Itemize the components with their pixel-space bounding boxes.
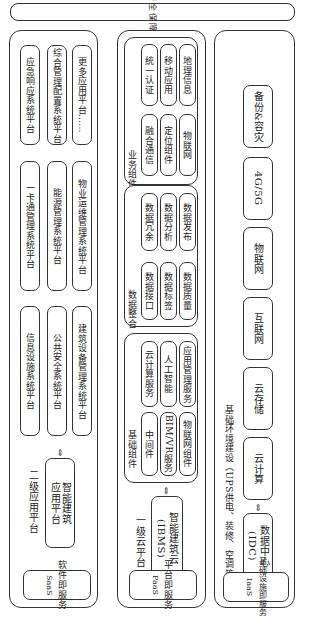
comp-data-interface: 数据接口: [141, 262, 158, 320]
bidirectional-arrow-icon: ⇔: [253, 504, 262, 512]
comp-middleware: 中间件: [141, 412, 158, 476]
comp-app-management: 应用管理服务: [179, 341, 196, 407]
comp-bim-vr: BIM/VR服务: [160, 412, 177, 476]
platform-energy-management: 能源管理系统平台: [47, 161, 67, 291]
security-system-banner: 统一安全保障体系: [10, 3, 295, 21]
platform-more-apps: 更多应用平台……: [72, 45, 92, 145]
iaas-tag-cn: 基础设施即服务: [257, 557, 268, 617]
core-line-2: (IBMS): [156, 519, 167, 558]
saas-layer-tag: SaaS 软件即服务: [23, 570, 91, 600]
business-components-title: 业务组件: [127, 150, 136, 188]
platform-public-safety: 公共安全系统平台: [47, 306, 67, 436]
iaas-layer-tag: IaaS 基础设施即服务: [223, 572, 289, 602]
paas-layer-title: 一级云平台: [134, 515, 144, 568]
comp-positioning: 定位组件: [160, 114, 177, 176]
platform-property-ops: 物业运维管理系统平台: [72, 161, 92, 291]
infra-iot: 物联网: [243, 227, 273, 290]
saas-layer-title: 二级应用平台: [27, 470, 37, 533]
platform-one-card: 一卡通管理系统平台: [20, 161, 40, 291]
infra-cloud-computing: 云计算: [243, 437, 273, 500]
iaas-layer-title: 基础环境建设（UPS供电、装修、空调等）: [224, 405, 233, 588]
comp-unified-auth: 统一认证: [141, 44, 158, 106]
platform-info-facilities: 信息设施系统平台: [20, 306, 40, 436]
paas-layer-tag: PaaS 平台即服务: [129, 570, 197, 600]
comp-geo-info: 地理信息: [179, 44, 196, 106]
bidirectional-arrow-icon: ⇔: [161, 487, 170, 495]
core-line-1: 智能建筑云: [168, 512, 179, 565]
paas-tag-cn: 平台即服务: [163, 560, 176, 610]
comp-data-quality: 数据质量: [179, 262, 196, 320]
comp-data-analysis: 数据分析: [160, 193, 177, 251]
comp-data-redundancy: 数据冗余: [141, 193, 158, 251]
core-line-2: 应用平台: [49, 482, 60, 524]
comp-data-tagging: 数据标签: [160, 262, 177, 320]
infra-internet: 互联网: [243, 297, 273, 360]
platform-building-equipment: 建筑设备管理系统平台: [72, 306, 92, 436]
paas-tag-en: PaaS: [151, 575, 160, 595]
comp-ai: 人工智能: [160, 341, 177, 407]
base-components-title: 基础组件: [127, 430, 136, 468]
infra-4g-5g: 4G/5G: [243, 157, 273, 220]
saas-tag-cn: 软件即服务: [57, 560, 70, 610]
bidirectional-arrow-icon: ⇔: [55, 449, 64, 457]
comp-iot-components: 物联网组件: [179, 412, 196, 476]
infra-backup-dr: 备份&容灾: [243, 85, 273, 148]
platform-emergency-response: 应急响应系统平台: [20, 45, 40, 145]
iaas-tag-en: IaaS: [245, 578, 254, 596]
comp-cloud-computing-service: 云计算服务: [141, 341, 158, 407]
comp-mobile-app: 移动应用: [160, 44, 177, 106]
smart-building-app-platform: 智能建筑 应用平台: [45, 458, 75, 548]
data-integration-title: 数据整合: [127, 290, 136, 328]
platform-integrated-management: 综合管理配置系统平台: [47, 45, 67, 145]
saas-tag-en: SaaS: [45, 575, 54, 596]
comp-data-publish: 数据发布: [179, 193, 196, 251]
comp-iot: 物联网: [179, 114, 196, 176]
infra-cloud-storage: 云存储: [243, 367, 273, 430]
comp-converged-comm: 融合通信: [141, 114, 158, 176]
core-line-1: 智能建筑: [61, 482, 72, 524]
